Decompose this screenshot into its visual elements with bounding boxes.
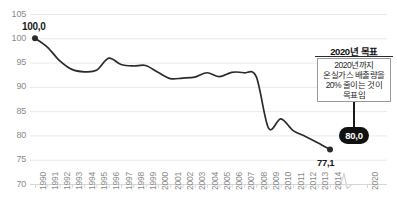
target-value-badge: 80,0	[339, 127, 369, 144]
chart-root: 707580859095100105 199019911992199319941…	[0, 0, 397, 220]
data-point-value-label: 77,1	[317, 157, 334, 168]
annotation-title-underline	[315, 56, 393, 57]
annotation-text-line: 온실가스 배출량을	[323, 70, 385, 80]
annotation-text-line: 2020년까지	[334, 60, 373, 70]
data-point-value-label: 100,0	[22, 21, 46, 32]
annotation-box: 2020년까지온실가스 배출량을20% 줄이는 것이목표임	[317, 58, 391, 102]
annotation-text-line: 20% 줄이는 것이	[326, 80, 383, 90]
annotation-text-line: 목표임	[343, 90, 366, 100]
data-point-labels: 100,077,1	[0, 0, 397, 220]
